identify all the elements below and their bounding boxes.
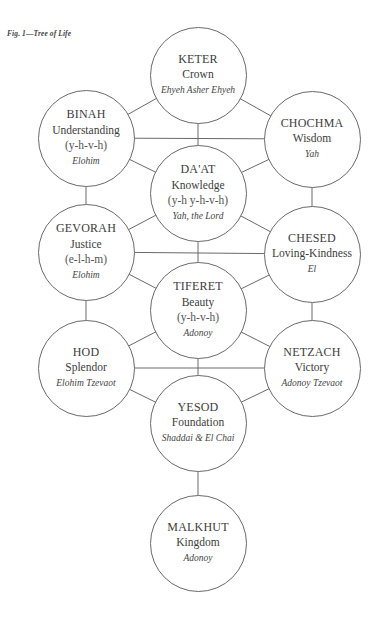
sefirah-divine-name: Adonoy (183, 326, 212, 342)
sefirah-name: GEVORAH (56, 221, 116, 237)
sefirah-name: TIFERET (173, 279, 222, 295)
sefirah-divine-name: Elohim (72, 154, 99, 170)
sefirah-divine-name: Elohim (72, 268, 99, 284)
sefirah-keter: KETER Crown Ehyeh Asher Ehyeh (150, 27, 247, 124)
sefirah-meaning: Foundation (172, 415, 224, 431)
sefirah-chesed: CHESED Loving-Kindness El (264, 206, 361, 303)
sefirah-divine-name: Yah (305, 147, 319, 163)
sefirah-divine-name: Shaddai & El Chai (162, 431, 235, 447)
sefirah-name: CHESED (288, 231, 336, 247)
sefirah-name: MALKHUT (167, 520, 228, 536)
sefirah-name: NETZACH (283, 345, 340, 361)
sefirah-daat: DA'AT Knowledge (y-h y-h-v-h) Yah, the L… (150, 145, 247, 242)
sefirah-name: YESOD (177, 400, 218, 416)
sefirah-binah: BINAH Understanding (y-h-v-h) Elohim (38, 90, 135, 187)
sefirah-meaning: Knowledge (171, 178, 224, 194)
sefirah-malkhut: MALKHUT Kingdom Adonoy (150, 495, 247, 592)
sefirah-letters: (y-h y-h-v-h) (168, 193, 228, 209)
sefirah-meaning: Wisdom (293, 131, 332, 147)
sefirah-chochma: CHOCHMA Wisdom Yah (264, 91, 361, 188)
sefirah-divine-name: Ehyeh Asher Ehyeh (161, 83, 235, 99)
sefirah-meaning: Crown (182, 67, 213, 83)
sefirah-tiferet: TIFERET Beauty (y-h-v-h) Adonoy (150, 262, 247, 359)
sefirah-divine-name: Yah, the Lord (173, 209, 224, 225)
sefirah-gevorah: GEVORAH Justice (e-l-h-m) Elohim (38, 204, 135, 301)
sefirah-divine-name: Adonoy (183, 551, 212, 567)
sefirah-letters: (y-h-v-h) (65, 138, 107, 154)
sefirah-name: HOD (73, 345, 100, 361)
sefirah-letters: (y-h-v-h) (177, 310, 219, 326)
sefirah-divine-name: Elohim Tzevaot (56, 376, 115, 392)
sefirah-name: BINAH (67, 107, 106, 123)
sefirah-name: KETER (178, 52, 218, 68)
sefirah-meaning: Kingdom (176, 535, 219, 551)
sefirah-meaning: Justice (70, 237, 101, 253)
sefirah-meaning: Understanding (52, 123, 120, 139)
sefirah-meaning: Beauty (182, 295, 215, 311)
sefirah-divine-name: Adonoy Tzevaot (282, 376, 343, 392)
sefirah-hod: HOD Splendor Elohim Tzevaot (38, 320, 135, 417)
sefirah-name: CHOCHMA (281, 116, 344, 132)
sefirah-name: DA'AT (180, 162, 215, 178)
sefirah-yesod: YESOD Foundation Shaddai & El Chai (150, 375, 247, 472)
sefirah-netzach: NETZACH Victory Adonoy Tzevaot (264, 320, 361, 417)
sefirah-meaning: Splendor (65, 360, 107, 376)
sefirah-divine-name: El (308, 262, 316, 278)
sefirah-meaning: Victory (295, 360, 329, 376)
sefirah-letters: (e-l-h-m) (65, 252, 107, 268)
sefirah-meaning: Loving-Kindness (272, 246, 352, 262)
